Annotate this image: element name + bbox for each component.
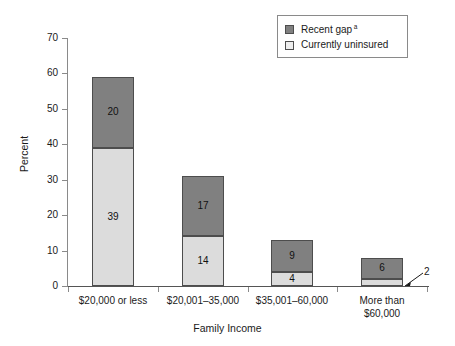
y-tick-label-wrap: 10 [26,246,58,256]
y-tick-label-wrap: 60 [26,68,58,78]
y-tick-label: 30 [30,175,58,185]
bar-value-label: 14 [197,256,208,266]
legend-label-recent-gap: Recent gapa [301,22,357,35]
bar-segment-currently-uninsured[interactable]: 39 [92,148,134,286]
bar-segment-recent-gap[interactable]: 20 [92,77,134,148]
bar-1[interactable]: 3920 [92,77,134,286]
bar-value-label: 9 [289,251,295,261]
y-axis-title: Percent [18,114,30,194]
x-axis-title: Family Income [0,322,455,334]
bar-4[interactable]: 26 [361,258,403,286]
y-tick-label: 40 [30,139,58,149]
y-tick-label: 0 [30,281,58,291]
bar-segment-recent-gap[interactable]: 17 [182,176,224,236]
callout-value-2: 2 [424,267,430,277]
x-tick-mark [337,287,338,292]
plot-area: 392014174926 [68,38,427,286]
bar-value-label: 17 [197,201,208,211]
legend-swatch-recent-gap-icon [285,25,294,34]
bar-segment-currently-uninsured[interactable]: 2 [361,279,403,286]
y-tick-label: 20 [30,210,58,220]
legend-item-recent-gap[interactable]: Recent gapa [285,21,407,37]
y-tick-label-wrap: 20 [26,210,58,220]
bar-segment-recent-gap[interactable]: 9 [271,240,313,272]
bar-2[interactable]: 1417 [182,176,224,286]
bar-3[interactable]: 49 [271,240,313,286]
y-tick-label-wrap: 40 [26,139,58,149]
legend-label-currently-uninsured: Currently uninsured [301,40,388,50]
bar-value-label: 20 [107,107,118,117]
y-tick-label-wrap: 0 [26,281,58,291]
x-category-label-4: More than $60,000 [327,295,437,320]
x-tick-mark [68,287,69,292]
y-tick-label: 70 [30,33,58,43]
y-tick-label: 10 [30,246,58,256]
chart-figure: 010203040506070 Percent Family Income 39… [0,0,455,346]
legend-superscript-a: a [354,23,358,30]
y-tick-label: 50 [30,104,58,114]
bar-value-label: 39 [107,212,118,222]
chart-legend: Recent gapa Currently uninsured [277,15,408,58]
x-tick-mark [248,287,249,292]
y-tick-label-wrap: 70 [26,33,58,43]
y-tick-label: 60 [30,68,58,78]
bar-segment-currently-uninsured[interactable]: 4 [271,272,313,286]
y-tick-label-wrap: 50 [26,104,58,114]
bar-segment-recent-gap[interactable]: 6 [361,258,403,279]
bar-segment-currently-uninsured[interactable]: 14 [182,236,224,286]
bar-value-label: 4 [289,274,295,284]
y-tick-label-wrap: 30 [26,175,58,185]
bar-value-label: 6 [379,263,385,273]
x-tick-mark [158,287,159,292]
legend-item-currently-uninsured[interactable]: Currently uninsured [285,37,407,53]
legend-swatch-currently-uninsured-icon [285,41,294,50]
